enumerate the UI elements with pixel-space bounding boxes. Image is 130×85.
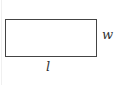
- width-label: w: [102, 28, 113, 41]
- length-label: l: [46, 60, 50, 73]
- scan-artifact-line: [1, 0, 2, 85]
- rectangle-shape: [5, 19, 97, 57]
